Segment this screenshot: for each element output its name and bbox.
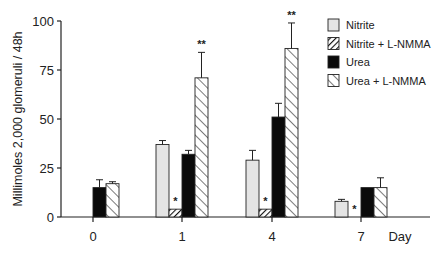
bar xyxy=(182,154,195,217)
bar xyxy=(246,160,259,217)
bar xyxy=(374,188,387,217)
legend-label: Nitrite + L-NMMA xyxy=(346,38,431,50)
bar xyxy=(285,48,298,217)
legend-label: Urea xyxy=(346,56,371,68)
significance-marker: * xyxy=(352,203,357,215)
bar xyxy=(272,117,285,217)
x-tick-label: 0 xyxy=(89,229,96,244)
legend-swatch xyxy=(328,56,339,68)
bar xyxy=(335,201,348,217)
bars: ******* xyxy=(93,9,387,217)
bar xyxy=(93,188,106,217)
legend-swatch xyxy=(328,38,339,50)
bar xyxy=(169,209,182,217)
significance-marker: ** xyxy=(287,9,296,21)
x-axis: 0147Day xyxy=(61,217,430,244)
y-axis: 0255075100 xyxy=(32,14,61,225)
y-tick-label: 25 xyxy=(40,161,54,176)
significance-marker: ** xyxy=(197,38,206,50)
x-axis-label: Day xyxy=(388,229,412,244)
y-tick-label: 100 xyxy=(32,14,54,29)
y-tick-label: 75 xyxy=(40,63,54,78)
legend-swatch xyxy=(328,19,339,31)
y-tick-label: 50 xyxy=(40,112,54,127)
x-tick-label: 7 xyxy=(357,229,364,244)
bar xyxy=(361,188,374,217)
bar xyxy=(259,209,272,217)
bar xyxy=(156,144,169,217)
y-axis-label: Millimoles 2,000 glomeruli / 48h xyxy=(11,31,25,206)
significance-marker: * xyxy=(263,195,268,207)
x-tick-label: 1 xyxy=(178,229,185,244)
significance-marker: * xyxy=(173,195,178,207)
x-tick-label: 4 xyxy=(268,229,275,244)
bar-chart: Millimoles 2,000 glomeruli / 48h 0255075… xyxy=(0,0,439,253)
bar xyxy=(195,78,208,217)
bar xyxy=(106,184,119,217)
legend-swatch xyxy=(328,75,339,87)
y-tick-label: 0 xyxy=(47,210,54,225)
legend-label: Nitrite xyxy=(346,19,375,31)
legend: NitriteNitrite + L-NMMAUreaUrea + L-NMMA xyxy=(328,19,431,87)
legend-label: Urea + L-NMMA xyxy=(346,75,426,87)
